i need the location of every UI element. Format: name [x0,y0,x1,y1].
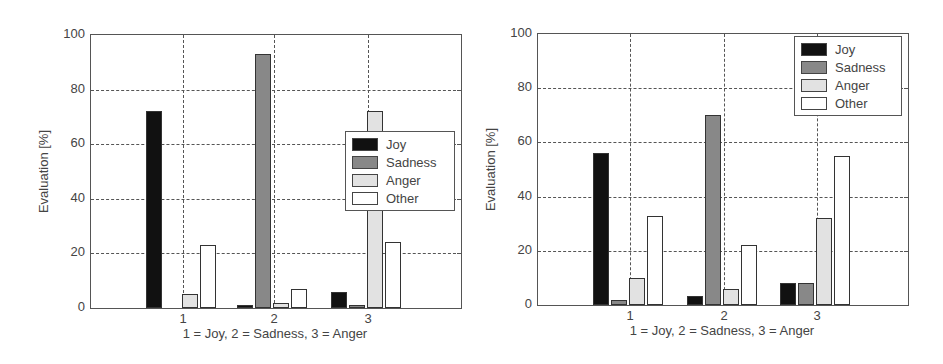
y-tick-label: 100 [55,26,85,41]
bar-anger-1 [629,278,645,305]
bar-joy-3 [780,283,796,305]
x-axis-label: 1 = Joy, 2 = Sadness, 3 = Anger [130,326,420,341]
bar-chart-1: 0204060801001231 = Joy, 2 = Sadness, 3 =… [0,0,471,364]
bar-sadness-2 [255,54,271,308]
legend-swatch-other [352,192,378,205]
grid-line-vertical [630,34,631,305]
legend-label: Other [835,96,868,111]
bar-sadness-1 [611,300,627,305]
legend-item-anger: Anger [801,76,895,94]
legend-swatch-joy [801,43,827,56]
y-tick-label: 40 [55,190,85,205]
y-tick-label: 20 [502,242,532,257]
bar-other-3 [834,156,850,305]
legend-swatch-other [801,97,827,110]
bar-joy-2 [687,296,703,305]
tick-mark [904,197,909,198]
bar-sadness-2 [705,115,721,305]
x-axis-label: 1 = Joy, 2 = Sadness, 3 = Anger [577,323,867,338]
legend-label: Anger [386,173,421,188]
legend-label: Sadness [835,60,886,75]
legend-item-other: Other [801,94,895,112]
y-tick-label: 20 [55,244,85,259]
legend-item-joy: Joy [801,40,895,58]
y-tick-label: 60 [502,133,532,148]
legend-swatch-anger [352,174,378,187]
legend-item-sadness: Sadness [352,153,448,171]
bar-joy-1 [593,153,609,305]
grid-line-vertical [274,35,275,308]
legend-item-other: Other [352,189,448,207]
y-axis-label: Evaluation [%] [483,109,498,229]
legend-swatch-sadness [352,156,378,169]
tick-mark [457,144,462,145]
grid-line-vertical [183,35,184,308]
y-tick-label: 40 [502,188,532,203]
legend-label: Joy [386,137,406,152]
bar-joy-3 [331,292,347,308]
legend-item-joy: Joy [352,135,448,153]
legend-label: Other [386,191,419,206]
bar-other-2 [291,289,307,308]
bar-joy-1 [146,111,162,308]
bar-other-1 [200,245,216,308]
legend: JoySadnessAngerOther [345,131,455,211]
x-tick-label: 1 [173,311,193,326]
y-tick-label: 80 [55,81,85,96]
legend-swatch-joy [352,138,378,151]
tick-mark [457,253,462,254]
bar-anger-1 [182,294,198,308]
bar-other-1 [647,216,663,305]
legend-label: Joy [835,42,855,57]
tick-mark [457,90,462,91]
bar-anger-2 [273,303,289,308]
x-tick-label: 2 [714,308,734,323]
bar-sadness-3 [349,305,365,308]
y-tick-label: 80 [502,79,532,94]
x-tick-label: 2 [264,311,284,326]
tick-mark [904,88,909,89]
legend: JoySadnessAngerOther [794,36,902,116]
y-tick-label: 100 [502,25,532,40]
legend-label: Sadness [386,155,437,170]
y-tick-label: 0 [502,296,532,311]
legend-item-sadness: Sadness [801,58,895,76]
bar-joy-2 [237,305,253,308]
legend-swatch-sadness [801,61,827,74]
bar-anger-2 [723,289,739,305]
bar-anger-3 [816,218,832,305]
y-tick-label: 60 [55,135,85,150]
grid-line-horizontal [91,90,461,91]
tick-mark [457,199,462,200]
bar-other-2 [741,245,757,305]
tick-mark [904,251,909,252]
grid-line-vertical [724,34,725,305]
legend-item-anger: Anger [352,171,448,189]
bar-other-3 [385,242,401,308]
bar-chart-2: 0204060801001231 = Joy, 2 = Sadness, 3 =… [472,0,943,364]
legend-swatch-anger [801,79,827,92]
legend-label: Anger [835,78,870,93]
bar-sadness-3 [798,283,814,305]
x-tick-label: 3 [807,308,827,323]
x-tick-label: 3 [358,311,378,326]
grid-line-horizontal [538,142,908,143]
x-tick-label: 1 [620,308,640,323]
y-axis-label: Evaluation [%] [36,111,51,231]
tick-mark [904,142,909,143]
y-tick-label: 0 [55,299,85,314]
